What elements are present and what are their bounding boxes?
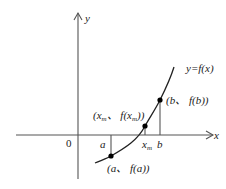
tick-label-b: b [157, 138, 163, 150]
point-label-b: (b、 f(b)) [166, 94, 209, 107]
tick-label-xm-sub: m [147, 144, 152, 152]
tick-label-a: a [100, 138, 106, 150]
y-axis-label: y [84, 12, 90, 24]
point-label-xm-part3: )) [136, 109, 145, 122]
point-xm [142, 123, 147, 128]
point-label-a: (a、 f(a)) [107, 162, 150, 175]
point-label-xm-part1: (x [93, 109, 102, 122]
origin-label: 0 [66, 137, 72, 149]
point-label-xm-part2: 、 f(x [107, 109, 132, 122]
point-a [108, 153, 113, 158]
point-label-xm: (xm、 f(xm)) [93, 109, 145, 123]
x-axis-label: x [213, 129, 219, 141]
function-label: y=f(x) [185, 62, 214, 75]
point-b [157, 97, 162, 102]
diagram-canvas: y x 0 a xm b y=f(x) (b、 f(b)) (xm、 f(xm)… [0, 0, 226, 189]
tick-label-xm: xm [141, 138, 152, 152]
